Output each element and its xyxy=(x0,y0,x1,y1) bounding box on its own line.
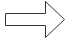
right-arrow-shape: block-arrow xyxy=(0,0,69,43)
right-arrow-icon xyxy=(0,0,69,43)
